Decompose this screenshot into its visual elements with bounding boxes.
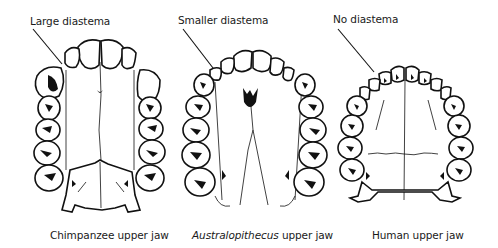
australopithecus-jaw-drawing xyxy=(182,29,327,206)
caption-species: Chimpanzee xyxy=(50,229,114,241)
human-caption: Human upper jaw xyxy=(372,229,464,241)
jaw-comparison-illustration xyxy=(0,0,498,248)
human-jaw-drawing xyxy=(338,29,473,202)
smaller-diastema-label: Smaller diastema xyxy=(178,14,268,26)
australopithecus-caption: Australopithecus upper jaw xyxy=(192,229,333,241)
chimpanzee-caption: Chimpanzee upper jaw xyxy=(50,229,169,241)
large-diastema-pointer-line xyxy=(33,29,62,64)
chimpanzee-jaw-drawing xyxy=(33,29,165,212)
no-diastema-pointer-line xyxy=(338,29,374,72)
caption-suffix: upper jaw xyxy=(114,229,168,241)
large-diastema-label: Large diastema xyxy=(30,15,110,27)
no-diastema-label: No diastema xyxy=(333,13,398,25)
caption-suffix: upper jaw xyxy=(279,229,333,241)
caption-suffix: upper jaw xyxy=(409,229,463,241)
caption-species: Human xyxy=(372,229,409,241)
smaller-diastema-pointer-line xyxy=(183,29,213,68)
caption-species-italic: Australopithecus xyxy=(192,229,279,241)
